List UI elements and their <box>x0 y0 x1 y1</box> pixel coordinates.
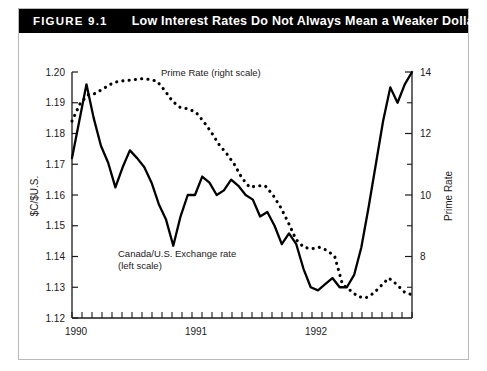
exchange-rate-annotation-line2: (left scale) <box>118 260 162 271</box>
right-axis-ticks <box>405 72 412 287</box>
right-tick-label: 8 <box>420 251 426 262</box>
left-axis-tick-labels: 1.121.131.141.151.161.171.181.191.20 <box>46 67 66 324</box>
left-tick-label: 1.20 <box>46 67 66 78</box>
chart-area: 1.121.131.141.151.161.171.181.191.20 810… <box>0 0 487 371</box>
chart-svg: 1.121.131.141.151.161.171.181.191.20 810… <box>0 0 487 371</box>
left-tick-label: 1.19 <box>46 97 66 108</box>
left-tick-label: 1.16 <box>46 190 66 201</box>
left-tick-label: 1.18 <box>46 128 66 139</box>
x-tick-label: 1990 <box>65 326 88 337</box>
x-axis-tick-labels: 199019911992 <box>65 326 328 337</box>
x-tick-label: 1991 <box>185 326 208 337</box>
left-tick-label: 1.15 <box>46 220 66 231</box>
exchange-rate-annotation-line1: Canada/U.S. Exchange rate <box>118 248 236 259</box>
left-tick-label: 1.14 <box>46 251 66 262</box>
right-axis-tick-labels: 8101214 <box>420 67 432 263</box>
prime-rate-annotation: Prime Rate (right scale) <box>161 67 261 78</box>
right-tick-label: 14 <box>420 67 432 78</box>
right-tick-label: 12 <box>420 128 432 139</box>
figure-page: FIGURE 9.1 Low Interest Rates Do Not Alw… <box>0 0 487 371</box>
left-tick-label: 1.12 <box>46 313 66 324</box>
chart-axes <box>72 72 412 318</box>
left-tick-label: 1.17 <box>46 159 66 170</box>
x-axis-ticks <box>72 312 412 318</box>
right-tick-label: 10 <box>420 190 432 201</box>
x-tick-label: 1992 <box>305 326 328 337</box>
right-axis-title: Prime Rate <box>443 171 454 221</box>
left-axis-title: $C/$U.S. <box>29 176 40 217</box>
left-tick-label: 1.13 <box>46 282 66 293</box>
